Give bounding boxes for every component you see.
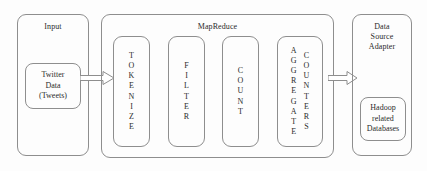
letter: O (238, 76, 244, 86)
letter: G (291, 97, 297, 107)
letter: U (238, 86, 244, 96)
letter: T (291, 117, 296, 127)
letter: N (129, 92, 135, 102)
letter: O (129, 61, 135, 71)
letter: G (291, 56, 297, 66)
stage-tokenize: T O K E N I Z E (113, 36, 150, 147)
letter: Z (129, 112, 134, 122)
letter: U (304, 71, 310, 81)
aggregate-letters: A G G R E G A T E (291, 46, 297, 138)
letter: E (129, 81, 134, 91)
letter: R (291, 76, 296, 86)
letter: T (304, 92, 309, 102)
mapreduce-panel-label: MapReduce (101, 22, 334, 32)
stage-filter: F I L T E R (168, 36, 205, 147)
letter: E (291, 86, 296, 96)
tokenize-letters: T O K E N I Z E (129, 51, 135, 133)
letter: A (291, 107, 297, 117)
filter-letters: F I L T E R (184, 61, 189, 122)
hadoop-databases-box: Hadoop related Databases (360, 97, 406, 141)
letter: E (184, 102, 189, 112)
letter: T (184, 92, 189, 102)
letter: N (238, 97, 244, 107)
stage-aggregate-counters: A G G R E G A T E C O U N T E R S (277, 36, 323, 147)
letter: E (291, 127, 296, 137)
input-panel-label: Input (17, 22, 89, 32)
letter: E (304, 102, 309, 112)
letter: I (130, 102, 133, 112)
diagram-canvas: Input Twitter Data (Tweets) MapReduce T … (0, 0, 427, 171)
hadoop-databases-label: Hadoop related Databases (367, 103, 399, 135)
letter: R (304, 112, 309, 122)
letter: C (304, 51, 309, 61)
letter: I (185, 71, 188, 81)
counters-letters: C O U N T E R S (304, 51, 310, 133)
letter: O (304, 61, 310, 71)
count-letters: C O U N T (238, 66, 244, 117)
twitter-data-label: Twitter Data (Tweets) (39, 70, 67, 102)
twitter-data-box: Twitter Data (Tweets) (25, 63, 81, 109)
letter: T (129, 51, 134, 61)
letter: N (304, 81, 310, 91)
letter: C (238, 66, 243, 76)
letter: K (129, 71, 135, 81)
letter: E (129, 122, 134, 132)
letter: G (291, 66, 297, 76)
stage-count: C O U N T (222, 36, 259, 147)
letter: L (184, 81, 189, 91)
letter: A (291, 46, 297, 56)
data-source-adapter-label: Data Source Adapter (352, 22, 412, 52)
letter: F (184, 61, 188, 71)
letter: S (304, 122, 308, 132)
letter: R (184, 112, 189, 122)
letter: T (238, 107, 243, 117)
